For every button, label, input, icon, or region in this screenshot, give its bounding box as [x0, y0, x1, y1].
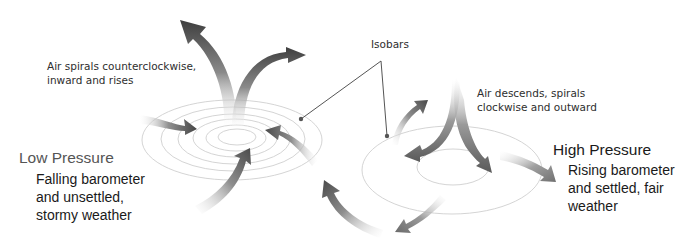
low-desc-line-2: and unsettled,: [36, 188, 145, 206]
inflow-arrow-right: [265, 125, 318, 166]
low-desc-line-3: stormy weather: [36, 206, 145, 224]
high-desc-line-2: and settled, fair: [568, 179, 675, 197]
high-pressure-airflow-note: Air descends, spirals clockwise and outw…: [477, 87, 597, 114]
low-airflow-line-1: Air spirals counterclockwise,: [47, 60, 196, 74]
high-desc-line-3: weather: [568, 197, 675, 215]
low-pressure-title: Low Pressure: [19, 149, 114, 167]
pressure-systems-diagram: Air spirals counterclockwise, inward and…: [0, 0, 696, 242]
low-airflow-line-2: inward and rises: [47, 74, 196, 88]
descending-arrow-curl-left: [404, 80, 460, 162]
low-desc-line-1: Falling barometer: [36, 170, 145, 188]
high-pressure-description: Rising barometer and settled, fair weath…: [568, 161, 675, 215]
outflow-arrow-up: [392, 100, 428, 145]
high-airflow-line-1: Air descends, spirals: [477, 87, 597, 101]
isobar-pointer-dot-left: [299, 117, 303, 121]
transfer-arrow-bottom-middle: [322, 180, 383, 238]
high-desc-line-1: Rising barometer: [568, 161, 675, 179]
isobar-pointer-dot-right: [385, 134, 389, 138]
isobars-leader-lines: [301, 61, 387, 136]
low-pressure-description: Falling barometer and unsettled, stormy …: [36, 170, 145, 224]
outflow-arrow-down-left: [395, 195, 446, 233]
high-pressure-title: High Pressure: [553, 141, 651, 159]
high-pressure-isobars: [362, 126, 542, 214]
inflow-arrow-bottom-left: [195, 148, 251, 214]
isobars-label: Isobars: [371, 38, 409, 52]
low-pressure-airflow-note: Air spirals counterclockwise, inward and…: [47, 60, 196, 87]
outflow-arrow-right: [500, 151, 556, 182]
high-airflow-line-2: clockwise and outward: [477, 101, 597, 115]
rising-arrow-up-right: [232, 47, 306, 128]
